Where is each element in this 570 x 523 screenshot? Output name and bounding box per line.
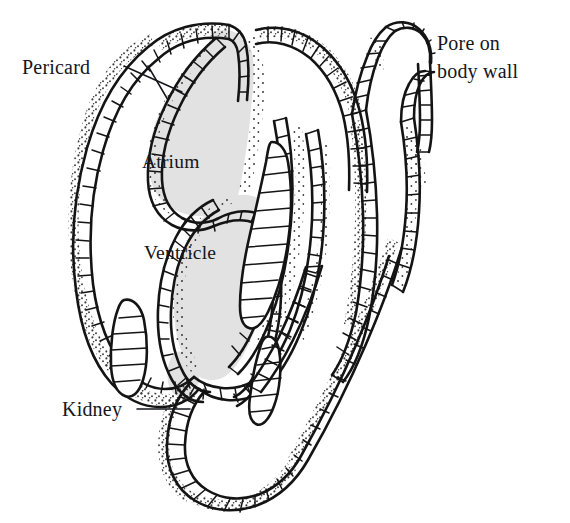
label-pore-line-1: Pore on: [437, 32, 500, 54]
pore-apex-outer: [395, 28, 430, 62]
label-ventricle: Ventricle: [144, 242, 216, 263]
label-atrium: Atrium: [142, 151, 200, 172]
label-pore-line-2: body wall: [437, 60, 518, 83]
anatomy-diagram-canvas: Pericard Atrium Ventricle Kidney Pore on…: [0, 0, 570, 523]
lower-left-pouch: [111, 300, 147, 397]
upper-right-arc-stipple: [258, 26, 362, 116]
anatomical-figure: Pericard Atrium Ventricle Kidney Pore on…: [0, 0, 570, 523]
lower-fold-inner: [194, 377, 253, 388]
label-pericard: Pericard: [22, 56, 90, 78]
pore-left-outer: [366, 31, 395, 110]
pericard-leader-tick: [148, 66, 168, 100]
label-kidney: Kidney: [62, 398, 122, 421]
